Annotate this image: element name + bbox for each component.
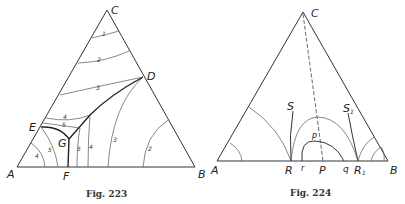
caption-fig223: Fig. 223 — [86, 189, 127, 199]
label-e: E — [29, 121, 36, 134]
isotherm-4-upper — [46, 115, 90, 120]
label-d: D — [147, 70, 155, 83]
svg-text:1: 1 — [362, 169, 366, 176]
curve-s1 — [348, 113, 358, 161]
triangle-abc — [17, 10, 195, 167]
isotherm-2-right — [143, 120, 168, 167]
svg-text:5: 5 — [77, 145, 81, 152]
label-q: q — [343, 164, 349, 174]
label-r: R — [285, 164, 293, 177]
label-b: B — [198, 168, 206, 181]
label-c: C — [311, 7, 319, 20]
svg-text:1: 1 — [350, 108, 354, 115]
svg-text:4: 4 — [63, 113, 67, 120]
arc-a-small — [230, 143, 242, 161]
arc-a-large — [249, 107, 291, 161]
boundary-dg — [69, 77, 143, 139]
dome-outer — [291, 117, 358, 161]
label-a: A — [210, 164, 219, 177]
isotherm-2 — [78, 51, 129, 63]
isotherm-3-right — [108, 77, 143, 167]
isotherm-4-mid — [88, 115, 90, 167]
label-r1: R — [354, 164, 362, 177]
isotherm-3 — [60, 77, 143, 95]
label-s: S — [287, 100, 294, 113]
svg-text:2: 2 — [148, 145, 152, 152]
label-p-small: p — [311, 131, 317, 140]
svg-text:3: 3 — [96, 84, 100, 91]
svg-text:2: 2 — [97, 56, 101, 63]
label-f: F — [63, 170, 70, 183]
figure-224: C S S 1 p A R r P q R 1 B Fig. 224 — [210, 7, 398, 198]
arc-b-large — [358, 137, 374, 161]
caption-fig224: Fig. 224 — [290, 188, 331, 198]
arc-b-small — [371, 147, 381, 161]
label-b: B — [390, 164, 398, 177]
svg-text:5: 5 — [62, 121, 66, 128]
label-s1: S — [343, 102, 350, 115]
label-r-small: r — [301, 164, 305, 173]
svg-text:4: 4 — [35, 152, 39, 159]
svg-text:5: 5 — [48, 146, 52, 153]
svg-text:4: 4 — [89, 143, 93, 150]
ternary-diagrams: 1 2 3 4 5 4 5 5 4 3 2 C D E G A F B Fig.… — [0, 0, 405, 204]
svg-text:3: 3 — [113, 136, 117, 143]
label-c: C — [111, 4, 119, 17]
figure-223: 1 2 3 4 5 4 5 5 4 3 2 C D E G A F B Fig.… — [6, 4, 206, 199]
label-p: P — [319, 164, 326, 177]
label-g: G — [58, 137, 67, 150]
triangle-abc — [217, 12, 388, 161]
label-a: A — [6, 168, 15, 181]
svg-text:1: 1 — [102, 30, 106, 37]
boundary-gf — [68, 139, 69, 167]
